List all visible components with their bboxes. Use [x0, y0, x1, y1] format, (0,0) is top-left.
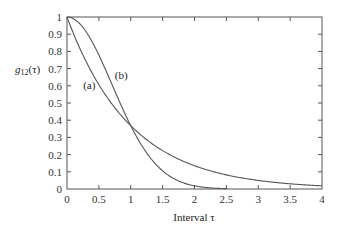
curve-label-a: (a) — [83, 79, 96, 92]
y-tick-label: 0.7 — [48, 63, 62, 75]
x-tick-label: 3 — [256, 193, 262, 205]
y-tick-label: 0.2 — [48, 149, 62, 161]
y-tick-label: 0.8 — [48, 45, 62, 57]
y-axis-ticks: 00.10.20.30.40.50.60.70.80.91 — [48, 11, 322, 195]
x-tick-label: 1.5 — [156, 193, 170, 205]
y-tick-label: 0.6 — [48, 80, 62, 92]
x-tick-label: 3.5 — [283, 193, 297, 205]
x-tick-label: 0.5 — [92, 193, 106, 205]
y-tick-label: 0.3 — [48, 131, 62, 143]
y-axis-label-sub: 12 — [21, 68, 29, 77]
x-axis-ticks: 00.511.522.533.54 — [64, 17, 325, 205]
y-axis-label: g12(τ) — [15, 63, 41, 77]
x-axis-label: Interval τ — [173, 211, 215, 223]
curve-a — [67, 17, 322, 186]
plot-frame — [67, 17, 322, 189]
y-tick-label: 0.5 — [48, 97, 62, 109]
curve-label-b: (b) — [115, 69, 128, 82]
curves — [67, 17, 322, 189]
curve-b — [67, 17, 226, 189]
curve-labels: (a)(b) — [83, 69, 128, 92]
chart: 00.511.522.533.54 00.10.20.30.40.50.60.7… — [0, 0, 338, 234]
x-tick-label: 2.5 — [220, 193, 234, 205]
y-tick-label: 1 — [57, 11, 63, 23]
y-tick-label: 0.4 — [48, 114, 62, 126]
x-tick-label: 0 — [64, 193, 70, 205]
x-tick-label: 1 — [128, 193, 134, 205]
x-tick-label: 2 — [192, 193, 198, 205]
y-tick-label: 0 — [57, 183, 63, 195]
x-tick-label: 4 — [319, 193, 325, 205]
y-tick-label: 0.1 — [48, 166, 62, 178]
y-axis-label-arg: (τ) — [29, 63, 41, 76]
y-tick-label: 0.9 — [48, 28, 62, 40]
